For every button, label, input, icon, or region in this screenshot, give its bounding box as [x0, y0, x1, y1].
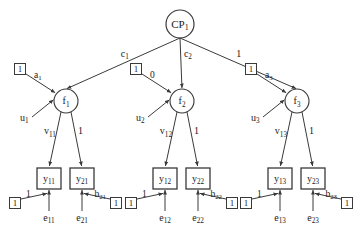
path-const-to-f2 [142, 74, 171, 93]
label-error-y12: e12 [159, 212, 171, 225]
label-residual-f2: u2 [136, 112, 145, 125]
label-loading-f1-y21: 1 [78, 125, 83, 136]
label-errvar-y22: b22 [210, 189, 222, 200]
path-cp1-to-f1 [67, 38, 180, 89]
path-errconst-to-y11 [21, 193, 47, 199]
path-cp1-to-f2 [180, 38, 182, 88]
path-f3-to-y13 [280, 112, 292, 166]
path-cp1-to-f3 [180, 38, 296, 89]
label-error-y21: e21 [76, 212, 88, 225]
label-errvar-y12: 1 [142, 189, 147, 199]
label-error-y11: e11 [43, 212, 55, 225]
label-loading-f2-y22: 1 [194, 125, 199, 136]
path-f1-to-y21 [71, 112, 82, 166]
label-residual-f3: u3 [251, 112, 260, 125]
const-box-f3-label: 1 [249, 64, 254, 74]
label-const-f1: a1 [34, 70, 42, 81]
const-box-error-y13-label: 1 [244, 198, 249, 208]
path-f1-to-y11 [49, 112, 61, 166]
label-errvar-y13: 1 [257, 189, 262, 199]
label-loading-f2-y12: v12 [160, 125, 173, 138]
const-box-error-y23-label: 1 [345, 198, 350, 208]
path-f3-to-y23 [302, 112, 313, 166]
path-diagram-canvas: CP1c1f11a1u1v111c2f210u2v1211f31a3u3v131… [0, 0, 358, 233]
const-box-error-y22-label: 1 [230, 198, 235, 208]
label-const-f3: a3 [265, 70, 273, 81]
label-residual-f1: u1 [20, 112, 29, 125]
label-error-y23: e23 [307, 212, 319, 225]
label-errvar-y21: b21 [94, 189, 106, 200]
label-loading-f3-y13: v13 [275, 125, 288, 138]
path-residual-to-f3 [263, 100, 284, 117]
const-box-error-y12-label: 1 [129, 198, 134, 208]
const-box-f1-label: 1 [18, 64, 23, 74]
path-residual-to-f1 [32, 100, 53, 117]
const-box-error-y21-label: 1 [114, 198, 119, 208]
const-box-error-y11-label: 1 [13, 198, 18, 208]
label-errvar-y23: b23 [325, 189, 337, 200]
label-error-y22: e22 [192, 212, 204, 225]
path-errconst-to-y13 [252, 193, 278, 199]
label-const-f2: 0 [150, 70, 155, 80]
label-loading-f3-y23: 1 [309, 125, 314, 136]
const-box-f2-label: 1 [134, 64, 139, 74]
label-loading-f1-y11: v11 [44, 125, 56, 138]
label-errvar-y11: 1 [26, 189, 31, 199]
label-path-cp1-f2: c2 [184, 48, 192, 61]
label-path-cp1-f3: 1 [236, 48, 241, 59]
label-path-cp1-f1: c1 [121, 48, 129, 61]
path-residual-to-f2 [148, 100, 169, 117]
label-error-y13: e13 [274, 212, 286, 225]
path-errconst-to-y12 [137, 193, 163, 199]
diagram-svg: CP1c1f11a1u1v111c2f210u2v1211f31a3u3v131… [0, 0, 358, 233]
path-f2-to-y22 [187, 112, 198, 166]
path-f2-to-y12 [165, 112, 177, 166]
